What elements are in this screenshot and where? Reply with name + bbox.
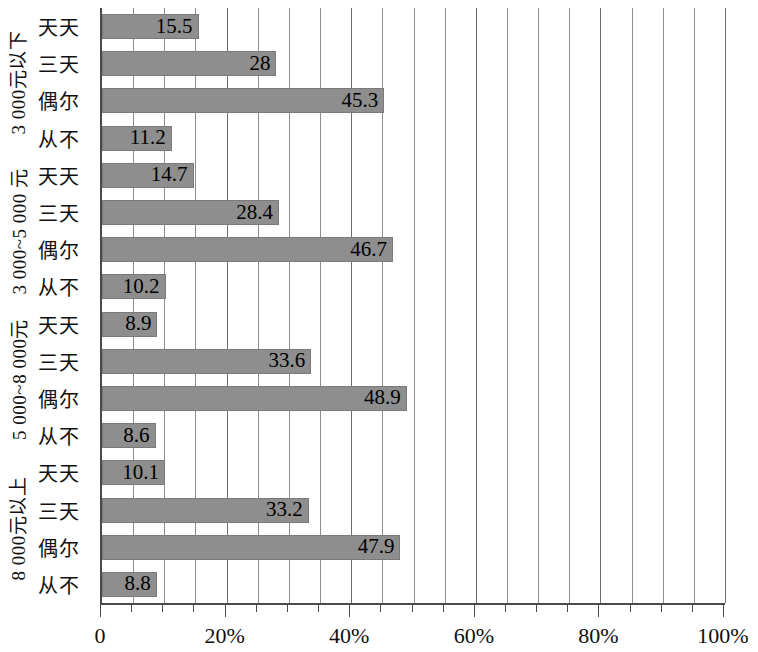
x-tick-10 bbox=[162, 605, 163, 612]
x-tick-95 bbox=[692, 605, 693, 612]
x-tick-label: 60% bbox=[454, 623, 494, 649]
x-tick-85 bbox=[630, 605, 631, 612]
category-label: 天天 bbox=[38, 459, 96, 487]
category-label: 偶尔 bbox=[38, 87, 96, 115]
bar-value-label: 45.3 bbox=[322, 90, 378, 111]
x-tick-100 bbox=[723, 605, 724, 617]
category-label: 天天 bbox=[38, 310, 96, 338]
x-tick-75 bbox=[567, 605, 568, 612]
x-tick-65 bbox=[505, 605, 506, 612]
x-tick-90 bbox=[661, 605, 662, 612]
x-tick-25 bbox=[256, 605, 257, 612]
category-label: 从不 bbox=[38, 422, 96, 450]
gridline-95 bbox=[694, 8, 695, 603]
category-label: 从不 bbox=[38, 124, 96, 152]
bar-value-label: 10.2 bbox=[104, 276, 160, 297]
gridline-90 bbox=[663, 8, 664, 603]
x-tick-label: 80% bbox=[578, 623, 618, 649]
category-label: 从不 bbox=[38, 570, 96, 598]
bar-value-label: 15.5 bbox=[137, 16, 193, 37]
x-tick-80 bbox=[598, 605, 599, 617]
plot-area bbox=[100, 8, 725, 605]
x-tick-label: 20% bbox=[204, 623, 244, 649]
bar-value-label: 48.9 bbox=[345, 387, 401, 408]
category-label: 三天 bbox=[38, 347, 96, 375]
category-label: 从不 bbox=[38, 273, 96, 301]
x-tick-50 bbox=[412, 605, 413, 612]
bar-value-label: 28 bbox=[214, 53, 270, 74]
group-label: 8 000元以上 bbox=[0, 454, 34, 603]
x-tick-label: 40% bbox=[329, 623, 369, 649]
x-tick-55 bbox=[443, 605, 444, 612]
category-label: 三天 bbox=[38, 199, 96, 227]
category-label: 三天 bbox=[38, 50, 96, 78]
gridline-100 bbox=[725, 8, 726, 603]
group-label-text: 5 000~8 000元 bbox=[4, 319, 31, 440]
category-label: 偶尔 bbox=[38, 236, 96, 264]
x-tick-45 bbox=[380, 605, 381, 612]
bar-value-label: 46.7 bbox=[331, 239, 387, 260]
group-label: 3 000元以下 bbox=[0, 8, 34, 157]
gridline-85 bbox=[632, 8, 633, 603]
x-tick-30 bbox=[287, 605, 288, 612]
x-tick-0 bbox=[100, 605, 101, 617]
bar-value-label: 14.7 bbox=[132, 164, 188, 185]
category-label: 偶尔 bbox=[38, 533, 96, 561]
group-label-text: 3 000~5 000 元 bbox=[4, 168, 31, 294]
x-tick-5 bbox=[131, 605, 132, 612]
gridline-60 bbox=[476, 8, 477, 603]
gridline-75 bbox=[569, 8, 570, 603]
gridline-70 bbox=[538, 8, 539, 603]
x-tick-40 bbox=[349, 605, 350, 617]
bar-value-label: 8.6 bbox=[94, 425, 150, 446]
category-label: 三天 bbox=[38, 496, 96, 524]
x-tick-15 bbox=[193, 605, 194, 612]
gridline-50 bbox=[414, 8, 415, 603]
x-tick-70 bbox=[536, 605, 537, 612]
x-tick-20 bbox=[225, 605, 226, 617]
x-tick-35 bbox=[318, 605, 319, 612]
gridline-65 bbox=[507, 8, 508, 603]
bar-value-label: 8.9 bbox=[95, 313, 151, 334]
bar-value-label: 47.9 bbox=[338, 536, 394, 557]
bar-chart: 3 000元以下3 000~5 000 元5 000~8 000元8 000元以… bbox=[0, 0, 758, 652]
group-label: 5 000~8 000元 bbox=[0, 306, 34, 455]
category-label: 偶尔 bbox=[38, 384, 96, 412]
x-tick-label: 0 bbox=[95, 623, 106, 649]
x-tick-60 bbox=[474, 605, 475, 617]
bar-value-label: 28.4 bbox=[217, 202, 273, 223]
group-label-text: 8 000元以上 bbox=[4, 477, 31, 581]
category-label: 天天 bbox=[38, 13, 96, 41]
gridline-80 bbox=[600, 8, 601, 603]
group-label-text: 3 000元以下 bbox=[4, 31, 31, 135]
bar-value-label: 11.2 bbox=[110, 127, 166, 148]
group-label: 3 000~5 000 元 bbox=[0, 157, 34, 306]
bar-value-label: 33.6 bbox=[249, 350, 305, 371]
x-tick-label: 100% bbox=[697, 623, 748, 649]
category-label: 天天 bbox=[38, 161, 96, 189]
gridline-55 bbox=[445, 8, 446, 603]
bar-value-label: 33.2 bbox=[247, 499, 303, 520]
bar-value-label: 10.1 bbox=[103, 462, 159, 483]
bar-value-label: 8.8 bbox=[95, 573, 151, 594]
